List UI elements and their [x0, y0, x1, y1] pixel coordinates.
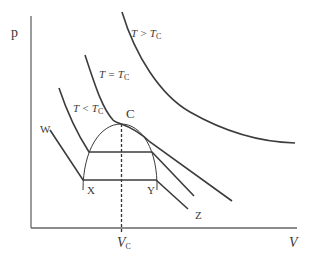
- point-w-label: W: [40, 124, 50, 135]
- x-axis-label: V: [289, 236, 298, 250]
- vc-main: V: [117, 235, 126, 250]
- label-sub: C: [124, 73, 129, 82]
- point-x-label: X: [87, 185, 95, 196]
- point-y-label: Y: [147, 185, 155, 196]
- isotherm-wxyz: [50, 130, 188, 209]
- critical-volume-label: VC: [117, 236, 131, 250]
- point-z-label: Z: [195, 210, 202, 221]
- label-rel: = T: [105, 68, 124, 80]
- y-axis-label: p: [11, 26, 18, 40]
- critical-point-label: C: [126, 107, 135, 120]
- label-above-critical: T > TC: [131, 28, 161, 39]
- label-rel: < T: [79, 102, 98, 114]
- label-sub: C: [156, 32, 161, 41]
- label-rel: > T: [137, 27, 156, 39]
- label-critical: T = TC: [99, 69, 129, 80]
- label-sub: C: [98, 107, 103, 116]
- vc-sub: C: [126, 242, 131, 251]
- label-below-critical: T < TC: [73, 103, 103, 114]
